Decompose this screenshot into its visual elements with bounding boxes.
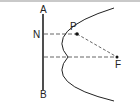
label-p: P: [70, 21, 77, 32]
parabola-diagram: A B N P F: [0, 0, 140, 106]
point-p-dot: [75, 32, 79, 36]
label-a: A: [40, 4, 47, 15]
label-n: N: [33, 29, 40, 40]
label-b: B: [40, 89, 47, 100]
dashed-line-pf: [77, 34, 117, 57]
label-f: F: [115, 59, 121, 70]
